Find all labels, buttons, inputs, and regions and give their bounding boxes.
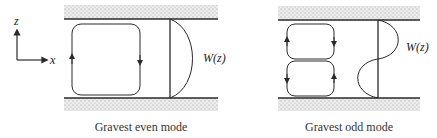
z-axis-label: z — [14, 14, 19, 29]
lower-cell — [287, 61, 334, 96]
odd-profile-label: W(z) — [406, 40, 429, 55]
even-profile-label: W(z) — [203, 51, 226, 66]
profile-curve — [170, 19, 193, 98]
coordinate-axes — [17, 32, 45, 60]
even-mode-caption: Gravest even mode — [95, 120, 188, 135]
bottom-wall-stipple — [64, 98, 218, 111]
circulation-cell — [72, 24, 140, 95]
x-axis-label: x — [50, 53, 55, 68]
upper-cell — [287, 24, 334, 59]
even-mode-panel — [64, 5, 218, 111]
odd-mode-panel — [278, 6, 420, 111]
diagram-canvas — [0, 0, 437, 138]
odd-mode-caption: Gravest odd mode — [305, 120, 393, 135]
top-wall-stipple — [64, 5, 218, 19]
